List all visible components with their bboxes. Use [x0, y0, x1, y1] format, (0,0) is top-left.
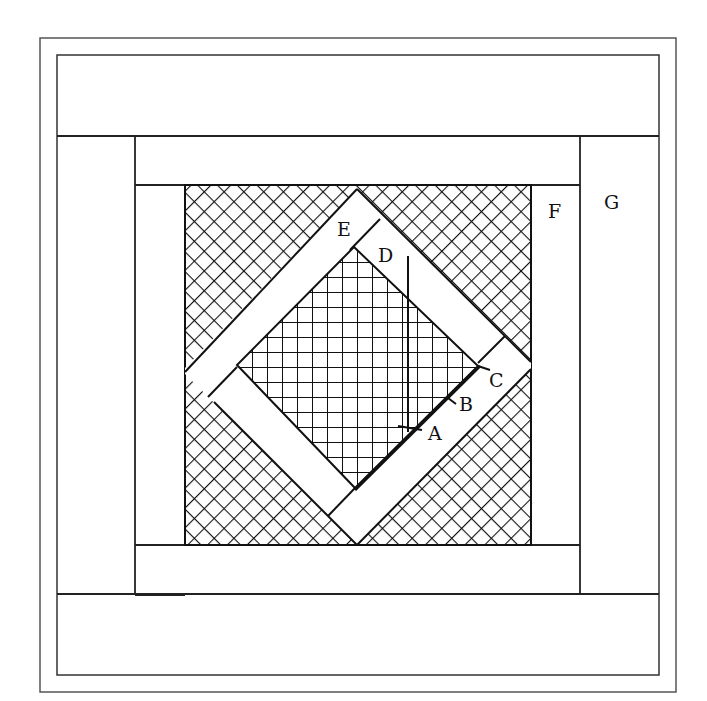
label-B: B: [459, 393, 473, 415]
label-A: A: [427, 422, 442, 444]
label-F: F: [548, 200, 561, 222]
label-G: G: [604, 191, 619, 213]
quilt-block-diagram: E D C B A F G: [0, 0, 707, 701]
label-D: D: [378, 244, 393, 266]
label-E: E: [337, 218, 351, 240]
label-C: C: [489, 369, 504, 391]
